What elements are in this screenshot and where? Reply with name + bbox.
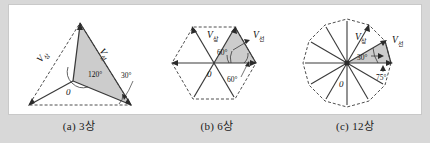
- angle-label-60-vertex: 60°: [227, 75, 238, 84]
- angle-leader-arrow-75: [380, 65, 386, 71]
- diagram-six-phase: V상 V선 60° 60° 0: [149, 5, 287, 116]
- phase-voltage-label: V상: [355, 32, 367, 44]
- center-hub: [344, 60, 349, 65]
- line-voltage-label: V선: [392, 35, 404, 47]
- figure-root: V상 V선 120° 30° 0: [0, 0, 430, 143]
- angle-label-120: 120°: [88, 70, 102, 79]
- three-phase-geometry: [28, 22, 133, 106]
- phase-voltage-label: V상: [207, 30, 219, 42]
- origin-label: 0: [339, 79, 344, 89]
- angle-label-75: 75°: [376, 73, 387, 82]
- origin-label: 0: [66, 87, 71, 97]
- angle-label-30: 30°: [121, 71, 132, 80]
- phase-vector-240: [326, 63, 347, 99]
- diagram-twelve-phase: V상 V선 30° 75° 0: [287, 5, 425, 116]
- phase-voltage-label: V상: [35, 49, 51, 65]
- arrowhead-180: [171, 60, 178, 66]
- arrowhead-60: [364, 24, 370, 32]
- caption-twelve-phase: (c) 12상: [286, 117, 424, 133]
- diagram-three-phase: V상 V선 120° 30° 0: [11, 5, 149, 116]
- caption-three-phase: (a) 3상: [10, 117, 148, 133]
- phase-vector-150: [311, 42, 347, 63]
- phase-vector-120: [326, 27, 347, 63]
- caption-six-phase: (b) 6상: [148, 117, 286, 133]
- caption-row: (a) 3상 (b) 6상 (c) 12상: [8, 117, 422, 141]
- angle-label-30: 30°: [357, 53, 368, 62]
- angle-label-60-center: 60°: [217, 48, 228, 57]
- phase-vector-300: [347, 63, 368, 99]
- origin-label: 0: [207, 69, 212, 79]
- figure-panel: V상 V선 120° 30° 0: [8, 4, 422, 115]
- twelve-phase-geometry: [303, 19, 393, 107]
- line-voltage-label: V선: [253, 30, 265, 42]
